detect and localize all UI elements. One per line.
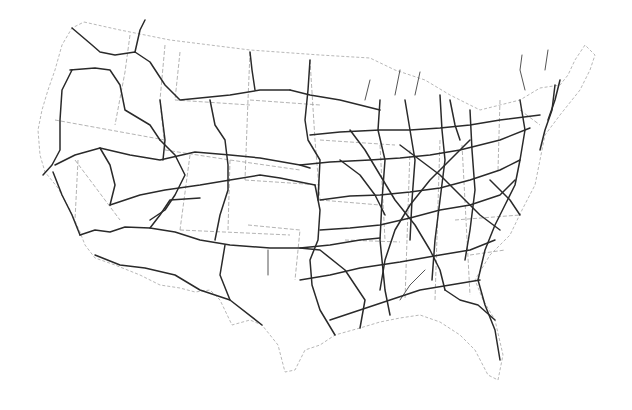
- minor-highway: [415, 72, 420, 95]
- interstate-highway: [340, 160, 385, 215]
- interstate-highway: [150, 198, 200, 228]
- interstate-highway: [378, 100, 390, 315]
- interstate-highway: [548, 80, 560, 120]
- state-line: [462, 145, 470, 295]
- minor-highway: [365, 80, 370, 100]
- state-line: [320, 200, 380, 205]
- interstate-highway: [160, 100, 165, 160]
- interstate-highways: [43, 20, 560, 360]
- minor-highway: [520, 55, 525, 90]
- state-line: [470, 250, 505, 255]
- interstate-highway: [220, 245, 230, 300]
- state-line: [165, 150, 300, 170]
- interstate-highway: [450, 100, 460, 140]
- minor-highway: [545, 50, 548, 70]
- interstate-highway: [350, 130, 445, 290]
- interstate-highway: [72, 28, 290, 100]
- interstate-highway: [445, 290, 495, 320]
- interstate-highway: [250, 52, 255, 90]
- minor-highway: [395, 70, 400, 95]
- interstate-highway: [310, 115, 540, 135]
- interstate-highway: [135, 20, 145, 52]
- interstate-highway: [540, 85, 555, 150]
- interstate-highway: [110, 175, 315, 205]
- interstate-highway: [380, 140, 470, 290]
- interstate-highway: [95, 255, 262, 325]
- state-line: [245, 52, 250, 180]
- us-interstate-map: [0, 0, 632, 410]
- state-line: [405, 150, 410, 300]
- interstate-highway: [465, 110, 475, 260]
- state-line: [455, 215, 520, 220]
- interstate-highway: [320, 180, 515, 230]
- interstate-highway: [80, 227, 380, 248]
- state-line: [180, 230, 290, 235]
- state-line: [498, 100, 500, 170]
- interstate-highway: [55, 148, 310, 168]
- state-line: [180, 155, 190, 230]
- state-line: [55, 120, 165, 140]
- interstate-highway: [310, 185, 335, 335]
- interstate-highway: [70, 68, 160, 140]
- interstate-highway: [305, 60, 320, 200]
- state-line: [250, 100, 320, 105]
- state-line: [75, 160, 78, 220]
- state-lines: [55, 35, 540, 300]
- interstate-highway: [210, 100, 228, 240]
